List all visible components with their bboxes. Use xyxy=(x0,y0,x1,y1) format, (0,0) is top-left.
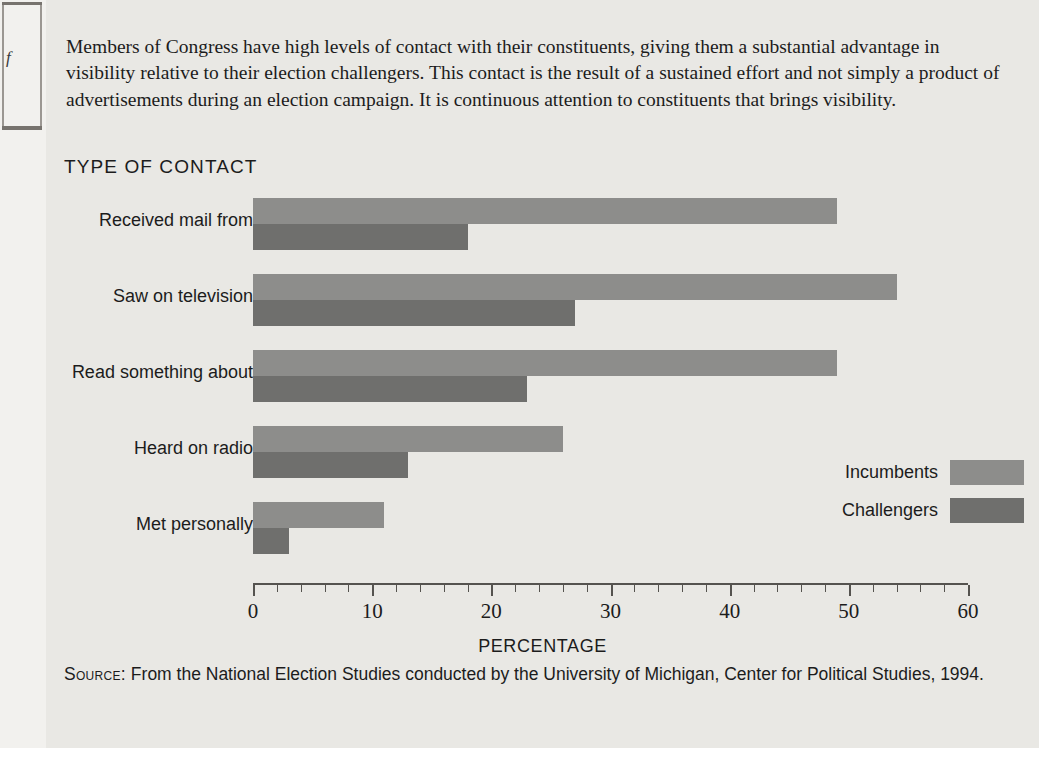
x-tick-label: 50 xyxy=(838,599,859,624)
bar-incumbents xyxy=(253,274,897,300)
x-tick-major xyxy=(968,585,970,596)
source-label: Source: xyxy=(64,664,126,684)
x-tick-major xyxy=(491,585,493,596)
bar-challengers xyxy=(253,224,468,250)
x-tick-minor xyxy=(420,585,421,592)
chart-legend: IncumbentsChallengers xyxy=(808,458,1024,534)
chart-title: TYPE OF CONTACT xyxy=(64,156,257,178)
x-tick-minor xyxy=(301,585,302,592)
x-tick-minor xyxy=(801,585,802,592)
bar-incumbents xyxy=(253,426,563,452)
category-label: Heard on radio xyxy=(0,438,253,459)
x-tick-minor xyxy=(539,585,540,592)
bar-challengers xyxy=(253,376,527,402)
bar-group: Saw on television xyxy=(46,272,1039,334)
x-tick-minor xyxy=(658,585,659,592)
scan-edge-left-rule xyxy=(2,5,4,127)
bar-incumbents xyxy=(253,502,384,528)
bar-group: Received mail from xyxy=(46,196,1039,258)
category-label: Met personally xyxy=(0,514,253,535)
scan-edge-bottom-bar xyxy=(2,126,42,130)
x-tick-minor xyxy=(325,585,326,592)
x-tick-minor xyxy=(563,585,564,592)
x-tick-minor xyxy=(825,585,826,592)
x-tick-minor xyxy=(682,585,683,592)
legend-label: Challengers xyxy=(842,500,938,521)
x-tick-major xyxy=(730,585,732,596)
category-label: Read something about xyxy=(0,362,253,383)
bar-incumbents xyxy=(253,350,837,376)
x-tick-major xyxy=(253,585,255,596)
x-tick-minor xyxy=(515,585,516,592)
x-tick-major xyxy=(611,585,613,596)
x-tick-label: 20 xyxy=(481,599,502,624)
scan-edge-glyph: f xyxy=(6,48,11,68)
legend-label: Incumbents xyxy=(845,462,938,483)
x-tick-major xyxy=(849,585,851,596)
x-axis: 0102030405060 xyxy=(46,583,1039,584)
category-label: Received mail from xyxy=(0,210,253,231)
x-tick-minor xyxy=(897,585,898,592)
bar-group: Read something about xyxy=(46,348,1039,410)
intro-paragraph: Members of Congress have high levels of … xyxy=(66,34,1004,114)
x-tick-minor xyxy=(277,585,278,592)
x-tick-label: 40 xyxy=(719,599,740,624)
x-tick-label: 60 xyxy=(958,599,979,624)
bar-challengers xyxy=(253,300,575,326)
x-tick-minor xyxy=(873,585,874,592)
x-tick-minor xyxy=(587,585,588,592)
x-tick-minor xyxy=(634,585,635,592)
bar-incumbents xyxy=(253,198,837,224)
scan-edge-right-rule xyxy=(40,5,42,127)
x-tick-minor xyxy=(754,585,755,592)
x-tick-label: 10 xyxy=(362,599,383,624)
source-note: Source: From the National Election Studi… xyxy=(64,662,1004,686)
category-label: Saw on television xyxy=(0,286,253,307)
x-tick-label: 0 xyxy=(248,599,259,624)
x-tick-minor xyxy=(777,585,778,592)
legend-item: Incumbents xyxy=(808,458,1024,490)
x-axis-title: PERCENTAGE xyxy=(46,636,1039,657)
legend-swatch xyxy=(950,498,1024,523)
x-tick-minor xyxy=(348,585,349,592)
x-tick-minor xyxy=(706,585,707,592)
scan-edge-top-bar xyxy=(2,2,42,5)
x-tick-minor xyxy=(468,585,469,592)
bar-challengers xyxy=(253,452,408,478)
legend-item: Challengers xyxy=(808,496,1024,528)
legend-swatch xyxy=(950,460,1024,485)
x-tick-major xyxy=(372,585,374,596)
x-tick-minor xyxy=(396,585,397,592)
figure-panel: Members of Congress have high levels of … xyxy=(46,0,1039,748)
x-tick-minor xyxy=(944,585,945,592)
page-bottom-margin xyxy=(0,748,1039,764)
source-text: From the National Election Studies condu… xyxy=(131,664,984,684)
x-tick-label: 30 xyxy=(600,599,621,624)
bar-challengers xyxy=(253,528,289,554)
x-tick-minor xyxy=(444,585,445,592)
x-tick-minor xyxy=(920,585,921,592)
